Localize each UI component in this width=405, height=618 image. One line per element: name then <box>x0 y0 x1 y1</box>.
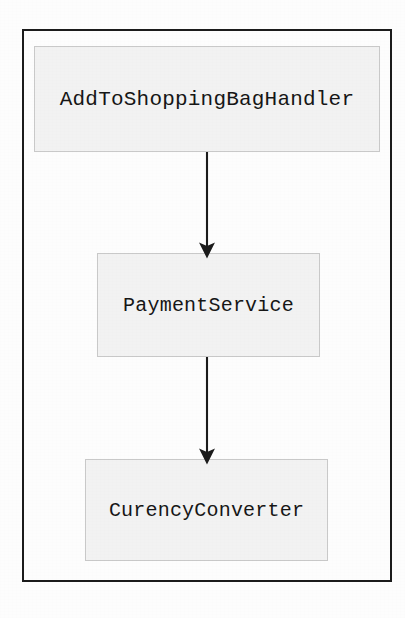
diagram-canvas: AddToShoppingBagHandler PaymentService C… <box>0 0 405 618</box>
node-label-handler: AddToShoppingBagHandler <box>60 88 354 111</box>
node-label-payment: PaymentService <box>123 294 294 317</box>
node-curency-converter[interactable]: CurencyConverter <box>85 459 328 561</box>
node-payment-service[interactable]: PaymentService <box>97 253 320 357</box>
node-label-converter: CurencyConverter <box>109 499 304 522</box>
node-add-to-shopping-bag-handler[interactable]: AddToShoppingBagHandler <box>34 46 380 152</box>
